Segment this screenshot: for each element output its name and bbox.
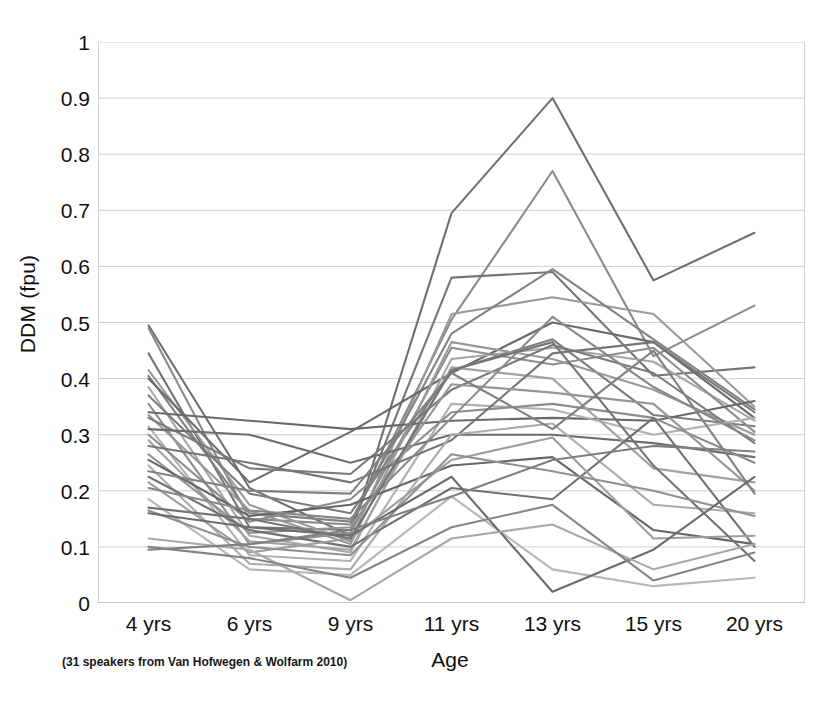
x-axis-tick-labels: 4 yrs6 yrs9 yrs11 yrs13 yrs15 yrs20 yrs	[98, 612, 805, 644]
y-axis-tick-label: 1	[38, 32, 90, 53]
x-axis-title: Age	[380, 648, 520, 672]
y-axis-tick-label: 0	[38, 593, 90, 614]
plot-area	[98, 42, 805, 603]
series-lines	[149, 98, 755, 600]
chart-annotation: (31 speakers from Van Hofwegen & Wolfarm…	[62, 655, 347, 669]
y-axis-tick-labels: 00.10.20.30.40.50.60.70.80.91	[34, 0, 90, 704]
y-axis-tick-label: 0.1	[38, 536, 90, 557]
plot-svg	[98, 42, 805, 603]
y-axis-tick-label: 0.9	[38, 88, 90, 109]
y-axis-tick-label: 0.5	[38, 312, 90, 333]
y-axis-tick-label: 0.4	[38, 368, 90, 389]
y-axis-tick-label: 0.7	[38, 200, 90, 221]
x-axis-tick-label: 20 yrs	[695, 612, 815, 636]
y-axis-tick-label: 0.6	[38, 256, 90, 277]
y-axis-tick-label: 0.3	[38, 424, 90, 445]
y-axis-tick-label: 0.2	[38, 480, 90, 501]
y-axis-tick-label: 0.8	[38, 144, 90, 165]
ddm-by-age-line-chart: DDM (fpu) 00.10.20.30.40.50.60.70.80.91 …	[0, 0, 832, 704]
